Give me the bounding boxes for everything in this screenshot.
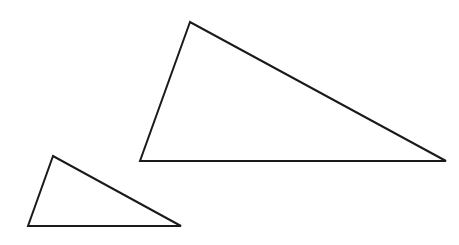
diagram-canvas — [0, 0, 459, 245]
large-triangle — [140, 22, 446, 161]
small-triangle — [28, 156, 181, 226]
